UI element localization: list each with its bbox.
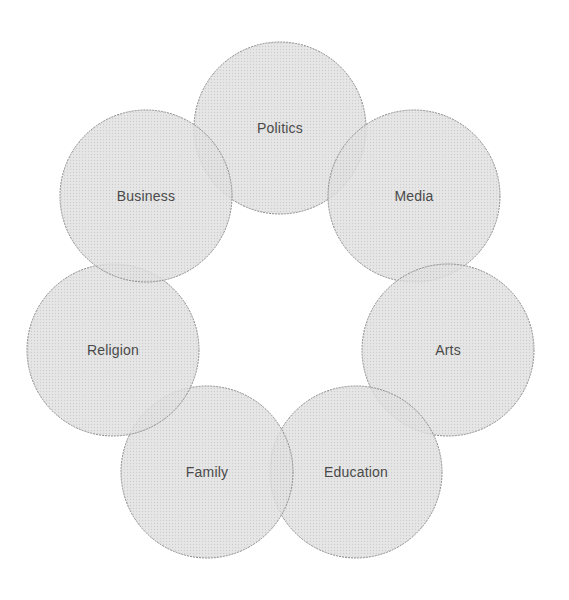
- label-media: Media: [394, 188, 433, 204]
- label-family: Family: [186, 464, 228, 480]
- label-business: Business: [117, 188, 175, 204]
- label-arts: Arts: [435, 342, 461, 358]
- label-religion: Religion: [87, 342, 139, 358]
- label-politics: Politics: [257, 120, 303, 136]
- diagram-canvas: [0, 0, 569, 600]
- label-education: Education: [324, 464, 388, 480]
- circle-ring-diagram: Politics Media Arts Education Family Rel…: [0, 0, 569, 600]
